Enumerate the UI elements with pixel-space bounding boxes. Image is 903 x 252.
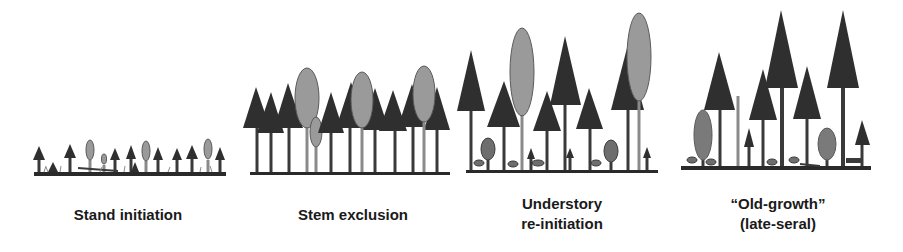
fallen-log-icon	[78, 168, 118, 171]
understory-shrub-icon	[818, 128, 836, 166]
understory-shrub-icon	[706, 159, 716, 165]
conifer-tree-icon	[186, 145, 198, 172]
conifer-tree-icon	[576, 88, 603, 170]
stage-label-line: “Old-growth”	[678, 194, 878, 214]
stage-label-line: Understory	[462, 194, 662, 214]
understory-shrub-icon	[591, 160, 601, 166]
conifer-sapling-icon	[643, 147, 651, 170]
conifer-tree-icon	[793, 66, 821, 166]
stage-label-line: re-initiation	[462, 214, 662, 234]
ground-line	[250, 172, 450, 175]
stage-label-stand-initiation: Stand initiation	[28, 205, 228, 225]
understory-shrub-icon	[508, 161, 518, 167]
ground-line	[34, 172, 226, 176]
conifer-tree-icon	[153, 147, 163, 172]
broadleaf-tree-icon	[510, 28, 534, 170]
conifer-tree-icon	[550, 36, 581, 170]
understory-shrub-icon	[604, 140, 618, 170]
broadleaf-tree-icon	[86, 140, 94, 172]
stage-label-line: (late-seral)	[678, 214, 878, 234]
understory-shrub-icon	[474, 160, 484, 166]
conifer-tree-icon	[64, 144, 76, 172]
fallen-log-icon	[846, 158, 862, 163]
conifer-tree-icon	[33, 146, 45, 172]
ground-line	[466, 170, 658, 173]
understory-shrub-icon	[789, 157, 799, 163]
broadleaf-tree-icon	[310, 117, 322, 172]
broadleaf-tree-icon	[142, 141, 150, 172]
conifer-sapling-icon	[744, 128, 754, 166]
conifer-tree-icon	[172, 148, 182, 172]
panel-understory-reinitiation	[457, 13, 658, 173]
stage-label-stem-exclusion: Stem exclusion	[248, 205, 458, 225]
fallen-log-icon	[800, 164, 820, 166]
understory-shrub-icon	[687, 157, 697, 163]
conifer-sapling-icon	[566, 148, 574, 170]
panel-stand-initiation	[33, 139, 226, 176]
understory-shrub-icon	[694, 110, 712, 166]
panel-stem-exclusion	[243, 66, 450, 175]
conifer-tree-icon	[110, 148, 120, 172]
stage-label-old-growth: “Old-growth” (late-seral)	[678, 194, 878, 234]
ground-line	[681, 166, 871, 170]
conifer-tree-icon	[48, 162, 58, 172]
understory-shrub-icon	[767, 159, 777, 165]
panel-old-growth	[681, 10, 871, 170]
conifer-tree-icon	[318, 92, 344, 172]
stage-label-line: Stem exclusion	[248, 205, 458, 225]
conifer-tree-icon	[215, 147, 225, 172]
stage-label-line: Stand initiation	[28, 205, 228, 225]
understory-shrub-icon	[532, 160, 544, 166]
stage-label-understory-reinitiation: Understory re-initiation	[462, 194, 662, 234]
conifer-tree-icon	[379, 90, 407, 172]
conifer-sapling-icon	[527, 148, 535, 170]
conifer-tree-icon	[765, 10, 798, 166]
